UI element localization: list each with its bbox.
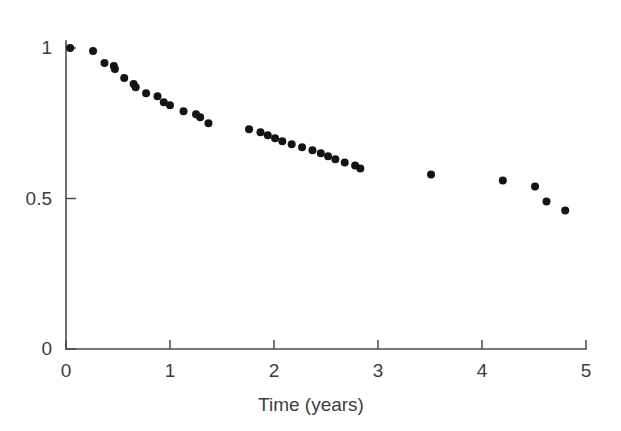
- data-point: [271, 134, 279, 142]
- x-axis-title: Time (years): [258, 394, 364, 415]
- x-tick-label-0: 0: [61, 360, 72, 381]
- y-tick-label-1: 1: [41, 37, 52, 58]
- data-point: [308, 146, 316, 154]
- x-tick-label-4: 4: [477, 360, 488, 381]
- data-point: [331, 155, 339, 163]
- scatter-plot-canvas: 01234500.51 Time (years): [0, 0, 621, 431]
- data-point: [89, 47, 97, 55]
- chart-figure: 01234500.51 Time (years): [0, 0, 621, 431]
- x-tick-label-3: 3: [373, 360, 384, 381]
- data-point: [324, 152, 332, 160]
- data-point: [561, 207, 569, 215]
- data-point: [245, 125, 253, 133]
- data-point: [542, 198, 550, 206]
- axis-group: [66, 41, 586, 349]
- x-tick-label-5: 5: [581, 360, 592, 381]
- data-point: [341, 158, 349, 166]
- data-point: [278, 137, 286, 145]
- data-point: [356, 164, 364, 172]
- data-point: [264, 131, 272, 139]
- data-point: [288, 140, 296, 148]
- data-point: [154, 92, 162, 100]
- data-point: [142, 89, 150, 97]
- data-point: [204, 119, 212, 127]
- data-point: [427, 170, 435, 178]
- data-point: [166, 101, 174, 109]
- data-point: [298, 143, 306, 151]
- data-point: [120, 74, 128, 82]
- data-point: [499, 176, 507, 184]
- x-tick-label-1: 1: [165, 360, 176, 381]
- data-point: [100, 59, 108, 67]
- data-point: [196, 113, 204, 121]
- data-point: [531, 182, 539, 190]
- data-point: [317, 149, 325, 157]
- data-point: [180, 107, 188, 115]
- data-point: [66, 44, 74, 52]
- data-point: [256, 128, 264, 136]
- y-tick-label-0.5: 0.5: [26, 188, 52, 209]
- tick-label-group: 01234500.51: [26, 37, 592, 381]
- y-tick-label-0: 0: [41, 338, 52, 359]
- data-point: [132, 83, 140, 91]
- data-point: [111, 65, 119, 73]
- x-tick-label-2: 2: [269, 360, 280, 381]
- data-points-group: [66, 44, 569, 215]
